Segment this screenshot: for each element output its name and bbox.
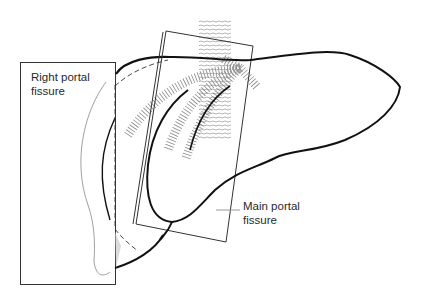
- portal-vein-branches: [128, 58, 258, 158]
- right-label-line2: fissure: [31, 84, 90, 98]
- hidden-outline-dashed: [115, 60, 168, 251]
- liver-diagram: [0, 0, 423, 306]
- shaded-wedge: [115, 232, 121, 268]
- main-label-line2: fissure: [243, 213, 300, 227]
- right-portal-fissure-label: Right portal fissure: [31, 70, 90, 98]
- liver-outline: [147, 52, 400, 222]
- right-label-line1: Right portal: [31, 70, 90, 84]
- liver-bottom-edge: [115, 235, 163, 268]
- main-label-line1: Main portal: [243, 199, 300, 213]
- main-portal-fissure-label: Main portal fissure: [243, 199, 300, 227]
